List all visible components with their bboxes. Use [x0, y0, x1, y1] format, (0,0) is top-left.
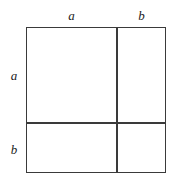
- left-edge-label-b: b: [4, 143, 24, 156]
- cell-top-right-ab: [118, 29, 164, 123]
- cell-top-left-a-squared: [28, 29, 117, 123]
- cell-bottom-left-ab: [28, 124, 117, 171]
- top-edge-label-a: a: [26, 9, 117, 22]
- top-edge-label-b: b: [117, 9, 166, 22]
- cell-bottom-right-b-squared: [118, 124, 164, 171]
- left-edge-label-a: a: [4, 69, 24, 82]
- binomial-square-figure: a b a b: [0, 0, 173, 182]
